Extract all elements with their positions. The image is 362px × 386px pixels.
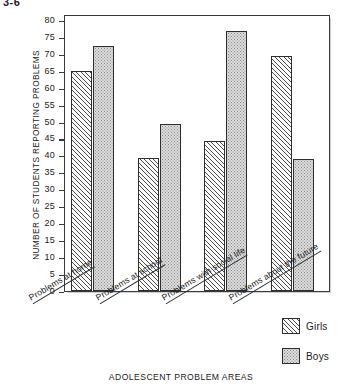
y-tick-label: 65 xyxy=(29,66,55,76)
page-header-fragment: 3-6 xyxy=(3,0,20,8)
y-tick-label: 10 xyxy=(29,252,55,262)
legend-swatch-boys-icon xyxy=(282,348,300,364)
y-tick-label: 50 xyxy=(29,117,55,127)
y-tick-mark xyxy=(59,156,64,157)
y-tick-mark xyxy=(59,72,64,73)
legend: Girls Boys xyxy=(282,318,329,378)
plot-area xyxy=(64,15,330,292)
bars-layer xyxy=(65,16,329,291)
y-tick-mark xyxy=(59,190,64,191)
y-tick-mark xyxy=(59,241,64,242)
legend-label-boys: Boys xyxy=(306,351,329,362)
y-tick-label: 30 xyxy=(29,184,55,194)
bar-chart-figure: 3-6 NUMBER OF STUDENTS REPORTING PROBLEM… xyxy=(0,0,362,386)
y-tick-label: 20 xyxy=(29,218,55,228)
y-tick-label: 25 xyxy=(29,201,55,211)
y-tick-mark xyxy=(59,258,64,259)
y-tick-mark xyxy=(59,207,64,208)
y-tick-label: 35 xyxy=(29,167,55,177)
y-tick-label: 40 xyxy=(29,150,55,160)
y-tick-mark xyxy=(59,173,64,174)
y-tick-mark xyxy=(59,139,64,140)
y-tick-mark xyxy=(59,21,64,22)
y-tick-label: 75 xyxy=(29,32,55,42)
y-tick-mark xyxy=(59,292,64,293)
y-tick-mark xyxy=(59,38,64,39)
y-tick-label: 45 xyxy=(29,133,55,143)
y-tick-mark xyxy=(59,224,64,225)
y-tick-label: 5 xyxy=(29,269,55,279)
y-tick-mark xyxy=(59,123,64,124)
legend-swatch-girls-icon xyxy=(282,318,300,334)
legend-item-boys: Boys xyxy=(282,348,329,364)
legend-item-girls: Girls xyxy=(282,318,329,334)
y-tick-label: 55 xyxy=(29,100,55,110)
bar-boys-3 xyxy=(293,159,314,291)
y-tick-mark xyxy=(59,89,64,90)
y-tick-label: 60 xyxy=(29,83,55,93)
y-tick-mark xyxy=(59,55,64,56)
legend-label-girls: Girls xyxy=(306,321,328,332)
y-tick-mark xyxy=(59,106,64,107)
bar-boys-0 xyxy=(93,46,114,291)
y-tick-label: 70 xyxy=(29,49,55,59)
y-tick-label: 80 xyxy=(29,15,55,25)
y-tick-label: 15 xyxy=(29,235,55,245)
